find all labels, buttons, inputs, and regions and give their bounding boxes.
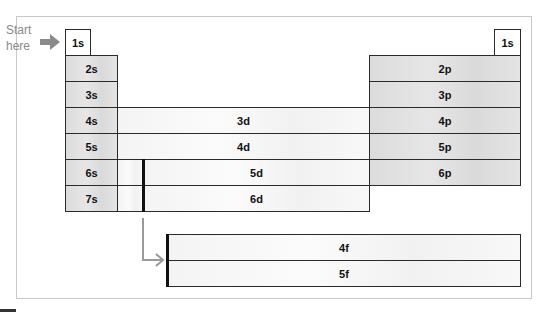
orbital-6d: 6d [143, 185, 370, 212]
orbital-2p: 2p [369, 55, 521, 82]
orbital-6s: 6s [65, 159, 118, 186]
start-arrow-icon [40, 33, 64, 51]
orbital-5p: 5p [369, 133, 521, 160]
orbital-5f: 5f [167, 260, 521, 287]
orbital-3d: 3d [117, 107, 370, 134]
orbital-4d: 4d [117, 133, 370, 160]
orbital-1s-right: 1s [494, 29, 521, 56]
orbital-2s: 2s [65, 55, 118, 82]
orbital-7s: 7s [65, 185, 118, 212]
f-block-arrow-icon [138, 216, 168, 268]
orbital-6p: 6p [369, 159, 521, 186]
orbital-3p: 3p [369, 81, 521, 108]
orbital-5s: 5s [65, 133, 118, 160]
orbital-5d: 5d [143, 159, 370, 186]
orbital-1s-left: 1s [65, 29, 91, 56]
f-gap-6 [117, 159, 144, 186]
orbital-4f: 4f [167, 234, 521, 261]
start-label-line2: here [6, 38, 36, 54]
start-label-line1: Start [6, 22, 36, 38]
orbital-4s: 4s [65, 107, 118, 134]
orbital-4p: 4p [369, 107, 521, 134]
f-insert-marker [142, 159, 145, 212]
f-gap-7 [117, 185, 144, 212]
orbital-3s: 3s [65, 81, 118, 108]
start-label: Start here [6, 22, 36, 54]
